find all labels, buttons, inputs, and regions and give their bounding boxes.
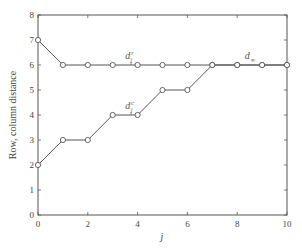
data-point-marker <box>160 87 165 92</box>
data-point-marker <box>35 162 40 167</box>
series-labels: drjdcjd∞ <box>125 50 256 115</box>
series-line-1 <box>38 65 287 165</box>
axis-ticks: 0246810012345678 <box>30 10 293 229</box>
x-axis-label: j <box>159 231 164 242</box>
series-label: dcj <box>125 100 134 113</box>
data-point-marker <box>210 62 215 67</box>
data-point-marker <box>35 37 40 42</box>
data-point-marker <box>185 87 190 92</box>
line-chart: 0246810012345678 drjdcjd∞ j Row, column … <box>0 0 302 248</box>
x-tick-label: 6 <box>185 219 190 229</box>
y-tick-label: 7 <box>30 35 35 45</box>
data-point-marker <box>110 112 115 117</box>
y-tick-label: 8 <box>30 10 35 20</box>
data-point-marker <box>284 62 289 67</box>
y-tick-label: 6 <box>30 60 35 70</box>
plot-frame <box>38 15 287 215</box>
y-tick-label: 2 <box>30 160 35 170</box>
axes-box <box>38 15 287 215</box>
data-point-marker <box>160 62 165 67</box>
data-point-marker <box>60 137 65 142</box>
x-tick-label: 4 <box>135 219 140 229</box>
series-label: drj <box>125 50 134 63</box>
data-point-marker <box>260 62 265 67</box>
data-point-marker <box>110 62 115 67</box>
data-point-marker <box>85 62 90 67</box>
y-tick-label: 3 <box>30 135 35 145</box>
data-point-marker <box>85 137 90 142</box>
y-axis-label: Row, column distance <box>7 70 18 159</box>
y-tick-label: 4 <box>30 110 35 120</box>
x-tick-label: 8 <box>235 219 240 229</box>
data-point-marker <box>135 112 140 117</box>
x-tick-label: 2 <box>86 219 91 229</box>
data-point-marker <box>135 62 140 67</box>
data-point-marker <box>185 62 190 67</box>
y-tick-label: 5 <box>30 85 35 95</box>
x-tick-label: 0 <box>36 219 41 229</box>
data-point-marker <box>235 62 240 67</box>
x-tick-label: 10 <box>283 219 293 229</box>
y-tick-label: 0 <box>30 210 35 220</box>
y-tick-label: 1 <box>30 185 35 195</box>
data-point-marker <box>60 62 65 67</box>
series-label: d∞ <box>245 50 256 63</box>
